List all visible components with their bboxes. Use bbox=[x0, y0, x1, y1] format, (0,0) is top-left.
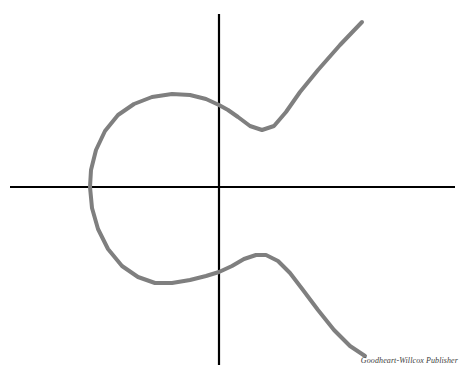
plot-canvas bbox=[0, 0, 469, 383]
publisher-credit: Goodheart-Willcox Publisher bbox=[361, 356, 458, 366]
plot-background bbox=[0, 0, 469, 383]
graph-figure: Goodheart-Willcox Publisher bbox=[0, 0, 469, 383]
